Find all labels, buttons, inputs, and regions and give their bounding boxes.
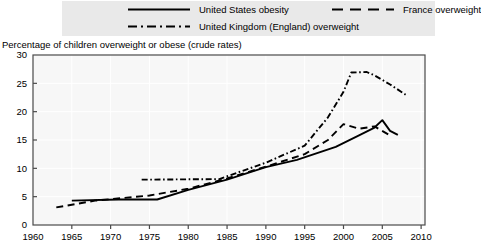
x-axis-tick-label: 2000 bbox=[333, 231, 354, 242]
dashed-line-icon bbox=[332, 4, 394, 15]
legend-label-united-states: United States obesity bbox=[199, 4, 289, 15]
x-axis-tick-label: 1985 bbox=[216, 231, 237, 242]
y-axis-tick-label: 10 bbox=[16, 163, 27, 174]
line-chart: 0510152025301960196519701975198019851990… bbox=[0, 47, 435, 248]
x-axis-tick-label: 1975 bbox=[139, 231, 160, 242]
x-axis-tick-label: 2005 bbox=[372, 231, 393, 242]
legend-label-france: France overweight bbox=[403, 4, 481, 15]
y-axis-tick-label: 0 bbox=[22, 219, 27, 230]
chart-plot-area: 0510152025301960196519701975198019851990… bbox=[0, 47, 435, 248]
x-axis-tick-label: 1990 bbox=[255, 231, 276, 242]
solid-line-icon bbox=[128, 4, 190, 15]
x-axis-tick-label: 1960 bbox=[22, 231, 43, 242]
legend-entry-united-kingdom: United Kingdom (England) overweight bbox=[128, 21, 359, 32]
x-axis-tick-label: 1965 bbox=[61, 231, 82, 242]
x-axis-tick-label: 2010 bbox=[411, 231, 432, 242]
y-axis-tick-label: 15 bbox=[16, 134, 27, 145]
legend-entry-france: France overweight bbox=[332, 4, 481, 15]
y-axis-tick-label: 20 bbox=[16, 106, 27, 117]
legend-entry-united-states: United States obesity bbox=[128, 4, 289, 15]
y-axis-tick-label: 25 bbox=[16, 78, 27, 89]
dash-dot-line-icon bbox=[128, 21, 190, 32]
y-axis-tick-label: 30 bbox=[16, 49, 27, 60]
x-axis-tick-label: 1995 bbox=[294, 231, 315, 242]
x-axis-tick-label: 1970 bbox=[100, 231, 121, 242]
legend-label-united-kingdom: United Kingdom (England) overweight bbox=[199, 21, 359, 32]
x-axis-tick-label: 1980 bbox=[178, 231, 199, 242]
y-axis-tick-label: 5 bbox=[22, 191, 27, 202]
